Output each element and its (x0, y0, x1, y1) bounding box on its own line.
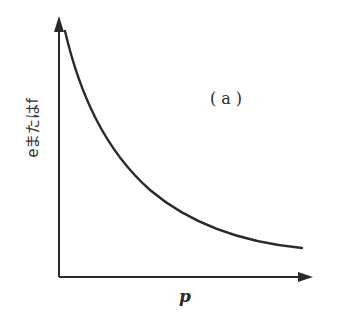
panel-label: ( a ) (210, 89, 242, 108)
y-axis-label: eまたはf (24, 98, 42, 158)
diagram-canvas: ( a ) p eまたはf (0, 0, 347, 312)
decay-curve (65, 31, 302, 248)
y-axis-arrow-icon (54, 16, 64, 32)
x-axis-arrow-icon (298, 272, 313, 282)
x-axis-label: p (179, 286, 191, 306)
